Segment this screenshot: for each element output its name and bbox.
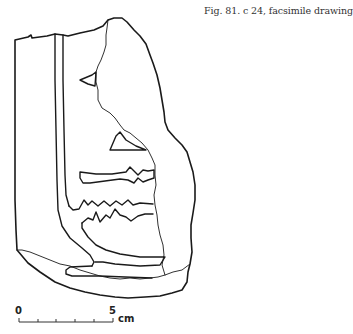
scale-unit-label: cm xyxy=(118,313,134,324)
scale-start-label: 0 xyxy=(15,305,22,316)
scale-end-label: 5 xyxy=(109,305,116,316)
